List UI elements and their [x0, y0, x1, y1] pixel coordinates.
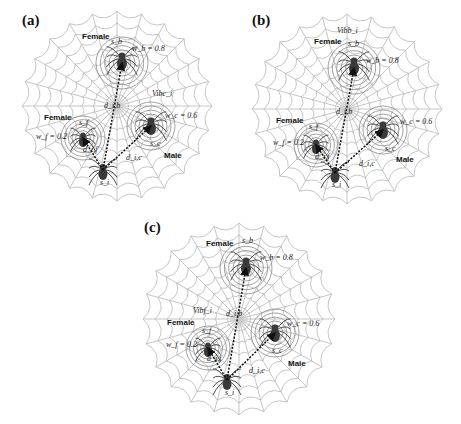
left-spider-name: s_f [79, 118, 88, 127]
distance-top: d_i,b [226, 309, 242, 318]
panel-c: (c) Female s_b w_b = 0.8 Vibf_i d_i,b Fe… [120, 205, 350, 424]
right-spider-sex: Male [164, 151, 182, 160]
right-spider-name: s_c [150, 139, 161, 148]
distance-left: d_i,f [83, 145, 97, 154]
top-spider-weight: w_b = 0.8 [132, 44, 165, 53]
vibration-label: Vibc_i [152, 89, 172, 98]
top-spider-weight: w_b = 0.8 [260, 253, 293, 262]
distance-right: d_i,c [359, 159, 375, 168]
distance-left: d_i,f [315, 152, 329, 161]
top-spider-name: s_b [242, 236, 253, 245]
distance-left: d_i,f [207, 354, 221, 363]
left-spider-name: s_f [309, 122, 318, 131]
distance-right: d_i,c [126, 153, 142, 162]
spider-icon [231, 252, 262, 281]
top-spider-weight: w_b = 0.8 [366, 56, 399, 65]
panel-label: (c) [144, 219, 161, 236]
right-spider-weight: w_c = 0.6 [165, 111, 197, 120]
top-spider-sex: Female [82, 32, 110, 41]
left-spider-name: s_f [202, 326, 211, 335]
right-spider-sex: Male [288, 359, 306, 368]
top-spider-name: s_b [348, 39, 359, 48]
bottom-spider-name: s_i [225, 388, 234, 397]
right-spider-name: s_c [385, 144, 396, 153]
bottom-spider-name: s_i [100, 178, 109, 187]
right-spider-weight: w_c = 0.6 [287, 319, 319, 328]
panel-label: (a) [22, 12, 40, 29]
top-spider-sex: Female [206, 239, 234, 248]
right-spider-weight: w_c = 0.6 [400, 117, 432, 126]
left-spider-sex: Female [44, 113, 72, 122]
vibration-label: Vibb_i [337, 26, 358, 35]
left-spider-sex: Female [276, 116, 304, 125]
left-spider-weight: w_f = 0.2 [273, 138, 304, 147]
top-spider-name: s_b [111, 37, 122, 46]
distance-right: d_i,c [249, 366, 265, 375]
distance-top: d_i,b [336, 107, 352, 116]
panel-label: (b) [252, 12, 270, 29]
top-spider-sex: Female [314, 37, 342, 46]
panel-a: (a) Female s_b w_b = 0.8 Vibc_i Female s… [0, 0, 230, 210]
right-spider-sex: Male [396, 155, 414, 164]
left-spider-weight: w_f = 0.2 [36, 132, 67, 141]
right-spider-name: s_c [272, 346, 283, 355]
panel-b: (b) Vibb_i Female s_b w_b = 0.8 Female s… [230, 0, 461, 210]
vibration-label: Vibf_i [193, 306, 212, 315]
left-spider-sex: Female [167, 318, 195, 327]
left-spider-weight: w_f = 0.2 [166, 340, 197, 349]
distance-top: d_i,b [104, 101, 120, 110]
bottom-spider-name: s_i [332, 180, 341, 189]
